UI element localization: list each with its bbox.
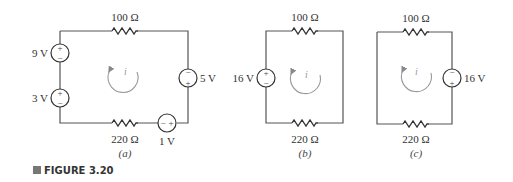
svg-text:+: + — [263, 68, 268, 78]
figure-label: FIGURE 3.20 — [33, 165, 114, 176]
current-label: i — [124, 66, 127, 77]
source-label: 5 V — [200, 72, 216, 84]
resistor-label: 220 Ω — [111, 133, 138, 145]
voltage-source-3v: + − — [51, 88, 69, 108]
figure-3-20-diagram: 100 Ω 220 Ω + − 9 V + − 3 V − + 5 V − + — [0, 0, 513, 182]
circuit-c: 100 Ω 220 Ω − + 16 V i (c) — [377, 12, 486, 160]
wire — [377, 32, 452, 124]
resistor-label: 100 Ω — [111, 11, 138, 23]
resistor-220-ohm — [112, 120, 138, 126]
voltage-source-1v: − + — [158, 114, 176, 132]
wire — [60, 31, 188, 123]
resistor-220-ohm — [403, 121, 429, 127]
svg-text:+: + — [449, 78, 454, 88]
circuit-caption: (c) — [410, 147, 423, 160]
circuit-b: 100 Ω 220 Ω + − 16 V i (b) — [233, 11, 344, 160]
svg-text:+: + — [168, 118, 173, 128]
resistor-label: 100 Ω — [291, 11, 318, 23]
voltage-source-16v: + − — [257, 68, 275, 88]
resistor-100-ohm — [403, 29, 429, 35]
source-label: 16 V — [233, 72, 255, 84]
source-label: 16 V — [464, 72, 486, 84]
resistor-100-ohm — [112, 28, 138, 34]
current-label: i — [415, 66, 418, 77]
current-label: i — [305, 69, 308, 80]
voltage-source-9v: + − — [51, 43, 69, 63]
svg-text:+: + — [57, 88, 62, 98]
resistor-label: 220 Ω — [291, 133, 318, 145]
voltage-source-16v: − + — [443, 67, 461, 88]
voltage-source-5v: − + — [179, 67, 197, 88]
resistor-220-ohm — [292, 120, 318, 126]
circuit-caption: (a) — [119, 147, 132, 160]
circuit-a: 100 Ω 220 Ω + − 9 V + − 3 V − + 5 V − + — [32, 11, 216, 160]
svg-text:−: − — [57, 98, 62, 108]
svg-text:−: − — [263, 78, 268, 88]
svg-text:+: + — [57, 43, 62, 53]
resistor-label: 220 Ω — [402, 133, 429, 145]
source-label: 3 V — [32, 92, 48, 104]
figure-title: FIGURE 3.20 — [44, 165, 114, 176]
source-label: 1 V — [159, 135, 175, 147]
source-label: 9 V — [32, 47, 48, 59]
figure-marker-icon — [33, 166, 41, 174]
svg-text:−: − — [449, 67, 454, 77]
svg-text:−: − — [160, 118, 165, 128]
resistor-label: 100 Ω — [402, 12, 429, 24]
svg-text:+: + — [185, 78, 190, 88]
svg-text:−: − — [57, 53, 62, 63]
svg-text:−: − — [185, 67, 190, 77]
resistor-100-ohm — [292, 28, 318, 34]
circuit-caption: (b) — [299, 147, 312, 160]
